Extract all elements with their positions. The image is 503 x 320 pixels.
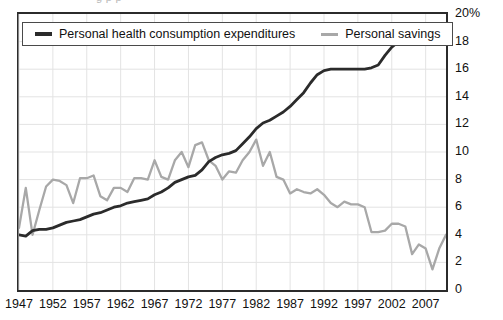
x-tick-2002: 2002 <box>378 297 406 311</box>
dark-line-swatch-icon <box>35 32 52 36</box>
x-tick-1997: 1997 <box>344 297 372 311</box>
legend-label-health-expenditures: Personal health consumption expenditures <box>59 27 295 41</box>
x-tick-1962: 1962 <box>107 297 135 311</box>
x-tick-1952: 1952 <box>39 297 67 311</box>
legend-item-health-expenditures: Personal health consumption expenditures <box>35 27 295 41</box>
chart-root: g p p 20%181614121086420 194719521957196… <box>0 0 503 320</box>
x-tick-1972: 1972 <box>175 297 203 311</box>
x-tick-1977: 1977 <box>208 297 236 311</box>
x-tick-1957: 1957 <box>73 297 101 311</box>
legend: Personal health consumption expenditures… <box>22 22 453 46</box>
x-tick-1947: 1947 <box>5 297 33 311</box>
x-tick-1992: 1992 <box>310 297 338 311</box>
x-tick-1982: 1982 <box>242 297 270 311</box>
x-tick-1967: 1967 <box>141 297 169 311</box>
legend-label-personal-savings: Personal savings <box>345 27 440 41</box>
x-axis-tick-labels: 1947195219571962196719721977198219871992… <box>0 0 503 320</box>
gray-line-swatch-icon <box>321 33 338 36</box>
legend-item-personal-savings: Personal savings <box>321 27 440 41</box>
x-tick-1987: 1987 <box>276 297 304 311</box>
x-tick-2007: 2007 <box>412 297 440 311</box>
